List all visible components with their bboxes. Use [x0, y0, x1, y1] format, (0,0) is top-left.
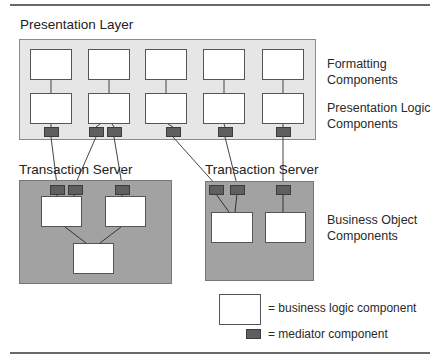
server-2-business-object-2 — [265, 212, 306, 243]
server-2-mediator-1 — [209, 185, 224, 195]
server-2-mediator-3 — [276, 185, 291, 195]
server-1-business-object-2 — [105, 196, 146, 227]
server-1-mediator-3 — [115, 185, 130, 195]
business-object-label-line1: Business Object — [327, 212, 417, 228]
server-1-business-object-3 — [73, 243, 114, 274]
legend-mediator-text: = mediator component — [268, 326, 388, 342]
bottom-rule — [10, 352, 430, 354]
server-1-mediator-1 — [50, 185, 65, 195]
server-1-business-object-1 — [41, 196, 82, 227]
server-1-mediator-2 — [68, 185, 83, 195]
server-2-business-object-1 — [211, 212, 253, 243]
legend-business-logic-text: = business logic component — [268, 300, 416, 316]
server-2-mediator-2 — [230, 185, 245, 195]
legend-business-logic-swatch — [219, 294, 261, 325]
legend-mediator-swatch — [246, 329, 261, 339]
business-object-label-line2: Components — [327, 228, 398, 244]
